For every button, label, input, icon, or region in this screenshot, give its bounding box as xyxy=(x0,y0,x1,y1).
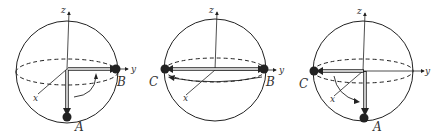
panel-2: z y x C B xyxy=(149,5,285,121)
y-label: y xyxy=(278,65,285,75)
panel-3: z y x C A xyxy=(299,6,431,134)
C-label: C xyxy=(299,77,308,91)
B-label: B xyxy=(265,75,275,89)
point-A xyxy=(63,113,72,122)
point-B xyxy=(112,65,121,74)
C-label: C xyxy=(149,75,158,89)
z-axis xyxy=(363,13,365,71)
rotation-arrow xyxy=(334,76,357,101)
equator-front xyxy=(164,70,266,82)
x-label: x xyxy=(33,93,38,103)
x-axis xyxy=(186,70,215,95)
point-C xyxy=(310,67,319,76)
z-label: z xyxy=(356,6,362,16)
x-axis xyxy=(38,69,67,94)
panel-1: z y x B A xyxy=(16,5,137,134)
rotation-arrow xyxy=(74,76,96,97)
x-label: x xyxy=(330,94,335,104)
z-label: z xyxy=(208,5,214,15)
equator-front xyxy=(313,71,413,83)
point-A xyxy=(360,114,369,123)
y-label: y xyxy=(130,64,137,74)
x-label: x xyxy=(183,93,188,103)
z-label: z xyxy=(60,5,66,15)
point-B xyxy=(260,65,269,74)
B-label: B xyxy=(116,75,126,89)
y-label: y xyxy=(424,66,431,76)
x-axis xyxy=(334,71,363,96)
bloch-sphere-figure: z y x B A z y x C B xyxy=(0,0,446,134)
A-label: A xyxy=(74,120,84,134)
point-C xyxy=(161,65,170,74)
z-axis xyxy=(215,12,217,70)
A-label: A xyxy=(372,120,382,134)
rotation-arrow xyxy=(172,77,262,82)
